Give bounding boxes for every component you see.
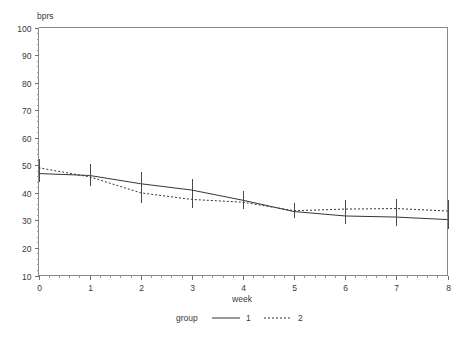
bprs-by-week-line-chart: bprs 102030405060708090100 012345678 wee… [0,0,464,340]
legend-title: group [176,313,198,323]
x-axis-title: week [231,294,253,304]
legend-label-group-1: 1 [246,313,251,323]
x-tick-label: 0 [37,283,42,293]
x-tick-label: 6 [343,283,348,293]
y-tick-label: 40 [22,189,32,199]
y-tick-label: 30 [22,216,32,226]
x-tick-label: 3 [190,283,195,293]
y-tick-label: 70 [22,106,32,116]
y-tick-label: 20 [22,244,32,254]
x-tick-label: 1 [88,283,93,293]
y-tick-label: 80 [22,79,32,89]
y-tick-label: 100 [17,24,31,34]
x-tick-label: 5 [292,283,297,293]
x-tick-label: 7 [394,283,399,293]
y-axis-title: bprs [37,11,54,21]
chart-container: bprs 102030405060708090100 012345678 wee… [0,0,464,340]
y-tick-label: 60 [22,134,32,144]
y-tick-label: 50 [22,161,32,171]
y-tick-label: 90 [22,51,32,61]
legend-label-group-2: 2 [298,313,303,323]
x-tick-label: 8 [446,283,451,293]
x-tick-label: 2 [139,283,144,293]
x-tick-label: 4 [241,283,246,293]
y-tick-label: 10 [22,272,32,282]
